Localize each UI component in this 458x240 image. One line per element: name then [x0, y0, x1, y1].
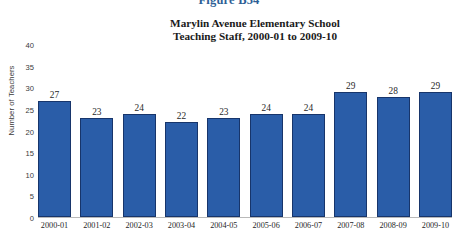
- bar-value-label: 24: [250, 103, 283, 113]
- bar-slot-2005-06: 24: [250, 45, 283, 217]
- bar-rect: [377, 97, 410, 217]
- chart-title: Marylin Avenue Elementary School Teachin…: [60, 17, 450, 43]
- y-axis-title: Number of Teachers: [7, 41, 16, 161]
- bar-slot-2008-09: 28: [377, 45, 410, 217]
- x-label-2009-10: 2009-10: [419, 221, 452, 230]
- x-label-2005-06: 2005-06: [250, 221, 283, 230]
- x-label-2004-05: 2004-05: [207, 221, 240, 230]
- bar-rect: [207, 118, 240, 217]
- bar-slot-2004-05: 23: [207, 45, 240, 217]
- bar-value-label: 28: [377, 86, 410, 96]
- bar-chart-figure: Figure B54 Marylin Avenue Elementary Sch…: [0, 0, 458, 240]
- y-tick-5: 5: [30, 192, 34, 201]
- plot-area: 0 5 10 15 20 25 30 35 40 27 23 24: [38, 45, 452, 218]
- y-tick-30: 30: [26, 84, 34, 93]
- bar-value-label: 22: [165, 111, 198, 121]
- bar-value-label: 23: [80, 107, 113, 117]
- bar-rect: [80, 118, 113, 217]
- y-tick-25: 25: [26, 105, 34, 114]
- bar-rect: [250, 114, 283, 217]
- y-tick-10: 10: [26, 170, 34, 179]
- bar-slot-2009-10: 29: [419, 45, 452, 217]
- bar-value-label: 27: [38, 90, 71, 100]
- bar-value-label: 24: [123, 103, 156, 113]
- bar-rect: [165, 122, 198, 217]
- x-axis-line: [38, 217, 452, 218]
- bar-value-label: 29: [419, 81, 452, 91]
- x-label-2006-07: 2006-07: [292, 221, 325, 230]
- bar-value-label: 24: [292, 103, 325, 113]
- bar-slot-2007-08: 29: [334, 45, 367, 217]
- x-label-2000-01: 2000-01: [38, 221, 71, 230]
- y-tick-15: 15: [26, 149, 34, 158]
- y-tick-0: 0: [30, 214, 34, 223]
- chart-title-line-1: Marylin Avenue Elementary School: [60, 17, 450, 30]
- bar-value-label: 23: [207, 107, 240, 117]
- bar-slot-2003-04: 22: [165, 45, 198, 217]
- x-label-2008-09: 2008-09: [377, 221, 410, 230]
- chart-title-line-2: Teaching Staff, 2000-01 to 2009-10: [60, 30, 450, 43]
- x-label-2002-03: 2002-03: [123, 221, 156, 230]
- bar-slot-2002-03: 24: [123, 45, 156, 217]
- x-label-2001-02: 2001-02: [80, 221, 113, 230]
- bar-slot-2006-07: 24: [292, 45, 325, 217]
- x-label-2003-04: 2003-04: [165, 221, 198, 230]
- bar-slot-2000-01: 27: [38, 45, 71, 217]
- bar-rect: [123, 114, 156, 217]
- y-tick-40: 40: [26, 41, 34, 50]
- bar-slot-2001-02: 23: [80, 45, 113, 217]
- y-tick-20: 20: [26, 127, 34, 136]
- bar-value-label: 29: [334, 81, 367, 91]
- bar-rect: [334, 92, 367, 217]
- x-label-2007-08: 2007-08: [334, 221, 367, 230]
- bar-series: 27 23 24 22 23 24: [38, 45, 452, 217]
- bar-rect: [419, 92, 452, 217]
- bar-rect: [292, 114, 325, 217]
- figure-number-label: Figure B54: [0, 0, 458, 8]
- x-axis-labels: 2000-01 2001-02 2002-03 2003-04 2004-05 …: [38, 221, 452, 230]
- y-tick-35: 35: [26, 62, 34, 71]
- bar-rect: [38, 101, 71, 217]
